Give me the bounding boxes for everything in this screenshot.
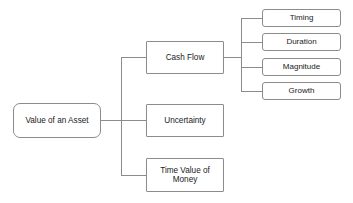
node-label-time-value-of-money: Time Value of Money — [157, 166, 213, 184]
node-label-cash-flow: Cash Flow — [163, 53, 208, 62]
node-root-value-of-an-asset: Value of an Asset — [13, 103, 101, 138]
node-label-duration: Duration — [283, 38, 319, 47]
node-cash-flow: Cash Flow — [146, 41, 224, 74]
node-label-root: Value of an Asset — [22, 116, 91, 125]
node-label-uncertainty: Uncertainty — [161, 116, 208, 125]
node-timing: Timing — [262, 9, 341, 27]
node-time-value-of-money: Time Value of Money — [146, 158, 224, 192]
node-label-magnitude: Magnitude — [280, 63, 323, 72]
diagram-canvas: Value of an Asset Cash Flow Uncertainty … — [0, 0, 353, 203]
node-growth: Growth — [262, 82, 341, 100]
node-magnitude: Magnitude — [262, 58, 341, 76]
node-duration: Duration — [262, 33, 341, 51]
node-uncertainty: Uncertainty — [146, 104, 224, 137]
node-label-growth: Growth — [286, 87, 318, 96]
node-label-timing: Timing — [287, 14, 317, 23]
